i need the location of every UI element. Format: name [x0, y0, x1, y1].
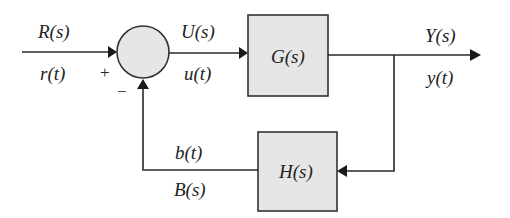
input-arrow-icon	[108, 46, 117, 58]
label-input-s: R(s)	[37, 21, 70, 43]
control-arrow-icon	[239, 47, 248, 59]
label-input-t: r(t)	[40, 63, 65, 85]
label-feedback-t: b(t)	[175, 142, 202, 164]
label-output-t: y(t)	[425, 67, 453, 89]
summing-junction	[117, 26, 169, 78]
label-feedback-s: B(s)	[174, 179, 206, 201]
label-forward-block: G(s)	[271, 46, 305, 68]
output-arrow-icon	[470, 49, 481, 61]
plus-sign: +	[100, 63, 110, 82]
label-output-s: Y(s)	[425, 25, 456, 47]
label-feedback-block: H(s)	[278, 161, 313, 183]
minus-sign: −	[117, 82, 127, 101]
feedback-branch-line	[345, 55, 394, 171]
label-control-s: U(s)	[181, 21, 215, 43]
block-diagram: R(s) r(t) + − U(s) u(t) G(s) Y(s) y(t) H…	[0, 0, 510, 218]
feedback-arrow-icon	[337, 165, 347, 177]
feedback-sum-arrow-icon	[137, 79, 149, 89]
label-control-t: u(t)	[184, 63, 211, 85]
